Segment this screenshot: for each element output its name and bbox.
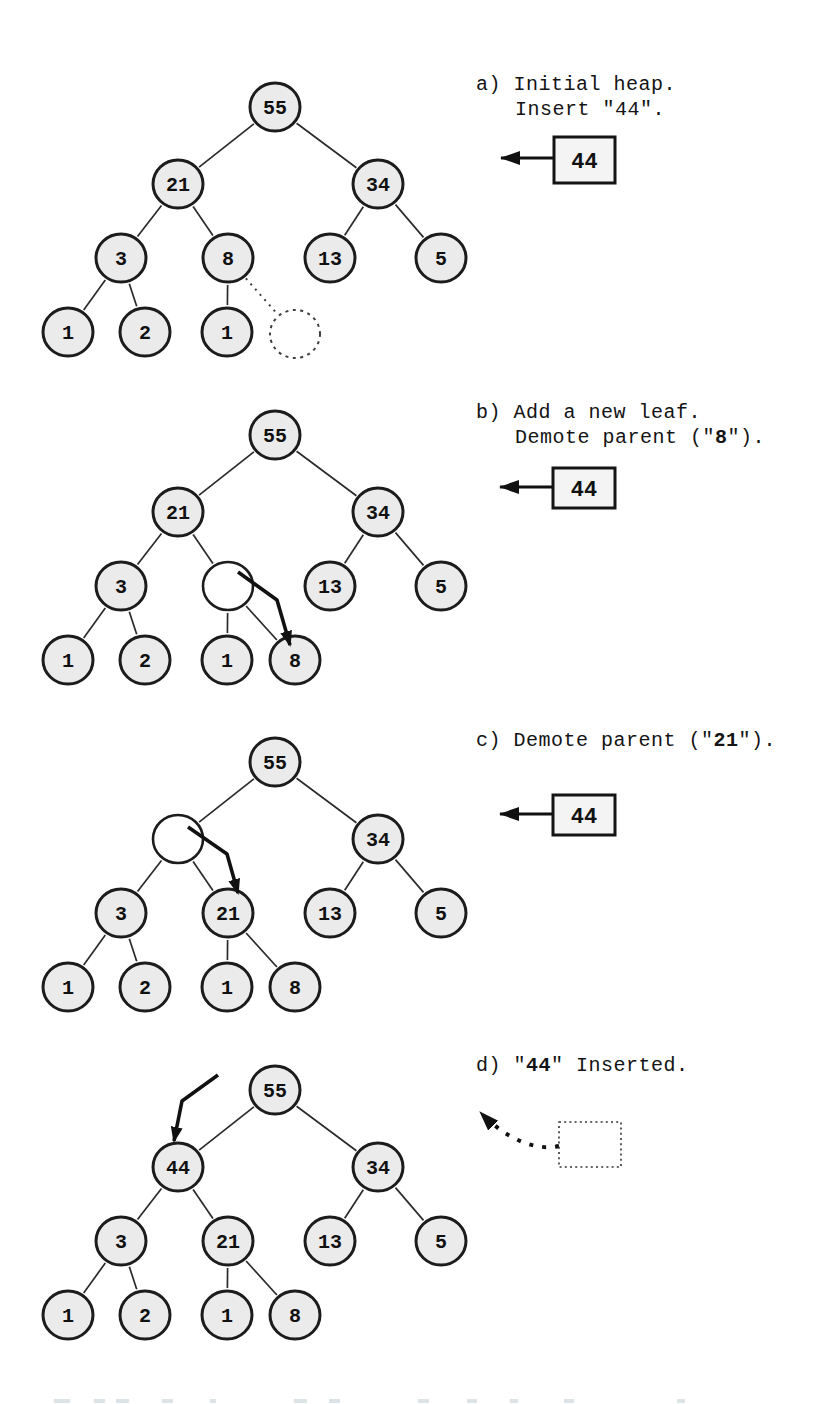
tree-edge: [129, 939, 136, 962]
node-label-5: 5: [435, 576, 447, 599]
tree-edge: [84, 608, 106, 638]
caption-text: d) ": [476, 1054, 526, 1077]
node-label-55: 55: [263, 425, 287, 448]
tree-edge: [345, 207, 364, 236]
heap-insertion-figure: 5521343813512144552134313512184455343211…: [0, 0, 833, 1404]
tree-edge: [193, 534, 213, 563]
tree-edge: [297, 451, 357, 496]
insert-box: 44: [500, 795, 615, 835]
tree-edge: [246, 1261, 277, 1295]
node-label-2: 2: [139, 322, 151, 345]
node-label-55: 55: [263, 1080, 287, 1103]
scan-artifact: [94, 1399, 105, 1403]
node-label-21: 21: [166, 502, 190, 525]
node-label-34: 34: [366, 174, 390, 197]
node-label-55: 55: [263, 97, 287, 120]
scan-artifact: [510, 1399, 518, 1403]
tree-edge: [396, 205, 424, 238]
caption-line: Insert "44".: [476, 97, 676, 122]
tree-edge: [129, 284, 136, 307]
node-label-8: 8: [289, 1305, 301, 1328]
scan-artifact: [418, 1399, 429, 1403]
node-label-1: 1: [221, 322, 233, 345]
caption-text: b) Add a new leaf.: [476, 401, 701, 424]
tree-edge: [129, 1267, 136, 1290]
tree-edge: [138, 205, 162, 236]
inserted-dashed-arrow: [480, 1112, 559, 1147]
scan-artifact: [210, 1399, 216, 1403]
tree-edge: [199, 452, 254, 495]
tree-edge: [396, 860, 424, 893]
node-label-13: 13: [318, 1231, 342, 1254]
tree-edge: [396, 1188, 424, 1221]
node-label-1: 1: [62, 977, 74, 1000]
node-label-34: 34: [366, 829, 390, 852]
node-label-3: 3: [115, 903, 127, 926]
node-label-5: 5: [435, 1231, 447, 1254]
node-label-1: 1: [62, 1305, 74, 1328]
panel-a-caption: a) Initial heap.Insert "44".: [476, 72, 676, 122]
node-empty: [153, 815, 203, 863]
node-label-8: 8: [289, 650, 301, 673]
caption-text: c) Demote parent (": [476, 729, 714, 752]
panel-b-caption: b) Add a new leaf.Demote parent ("8").: [476, 400, 765, 450]
node-label-2: 2: [139, 650, 151, 673]
node-label-5: 5: [435, 903, 447, 926]
demote-arrow: [174, 1075, 218, 1141]
tree-edge: [129, 612, 136, 635]
panel-d-tree: 5544343211351218: [43, 1066, 621, 1339]
tree-edge: [199, 779, 254, 822]
caption-line: c) Demote parent ("21").: [476, 728, 776, 753]
node-label-3: 3: [115, 1231, 127, 1254]
tree-edge: [138, 533, 162, 564]
scan-artifact: [162, 1399, 173, 1403]
insert-box-value: 44: [571, 478, 597, 503]
node-label-21: 21: [216, 1231, 240, 1254]
tree-edge: [193, 1189, 213, 1218]
tree-edge: [199, 124, 254, 167]
caption-text: ").: [739, 729, 777, 752]
tree-edge: [345, 535, 364, 564]
insert-box-value: 44: [571, 150, 597, 175]
insert-box: 44: [501, 137, 615, 183]
tree-edge: [246, 933, 277, 967]
caption-text: ").: [728, 426, 766, 449]
caption-text: Insert "44".: [515, 98, 665, 121]
node-ghost: [270, 310, 320, 358]
node-label-44: 44: [166, 1157, 190, 1180]
node-label-5: 5: [435, 248, 447, 271]
caption-text: Demote parent (": [515, 426, 715, 449]
tree-edge: [246, 606, 277, 640]
tree-edge: [345, 862, 364, 891]
node-label-2: 2: [139, 1305, 151, 1328]
emptied-box-rect: [559, 1122, 621, 1167]
tree-edge: [193, 861, 213, 890]
node-label-13: 13: [318, 248, 342, 271]
caption-line: b) Add a new leaf.: [476, 400, 765, 425]
caption-text: 21: [714, 729, 739, 752]
node-label-13: 13: [318, 903, 342, 926]
node-label-8: 8: [289, 977, 301, 1000]
scan-artifact: [54, 1399, 70, 1403]
tree-edge: [84, 1263, 106, 1293]
panel-b-tree: 5521343135121844: [43, 411, 615, 684]
node-label-3: 3: [115, 248, 127, 271]
tree-edge: [297, 778, 357, 823]
node-label-34: 34: [366, 502, 390, 525]
tree-edge: [297, 123, 357, 168]
caption-text: 44: [526, 1054, 551, 1077]
diagram-svg: 5521343813512144552134313512184455343211…: [0, 0, 833, 1404]
tree-edge: [84, 280, 106, 310]
tree-edge: [345, 1190, 364, 1219]
panel-d-caption: d) "44" Inserted.: [476, 1053, 689, 1078]
scan-artifact: [329, 1399, 340, 1403]
node-label-1: 1: [62, 650, 74, 673]
caption-text: " Inserted.: [551, 1054, 689, 1077]
tree-edge: [84, 935, 106, 965]
caption-line: a) Initial heap.: [476, 72, 676, 97]
caption-line: d) "44" Inserted.: [476, 1053, 689, 1078]
insert-box-value: 44: [571, 805, 597, 830]
panel-c-tree: 5534321135121844: [43, 738, 615, 1011]
node-label-34: 34: [366, 1157, 390, 1180]
scan-artifact: [116, 1399, 129, 1403]
